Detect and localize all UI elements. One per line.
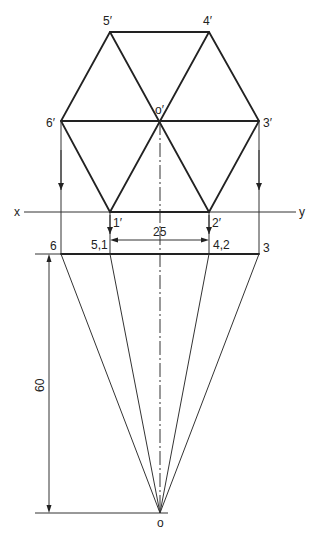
label-6-prime: 6′ bbox=[46, 116, 56, 130]
label-3-prime: 3′ bbox=[263, 116, 273, 130]
label-x: x bbox=[14, 205, 20, 219]
projection-drawing: 5′ 4′ 6′ o′ 3′ 1′ 2′ x y 6 5,1 4,2 3 o 2… bbox=[0, 0, 322, 536]
dimension-height bbox=[35, 254, 168, 513]
label-y: y bbox=[299, 205, 305, 219]
label-5-1: 5,1 bbox=[91, 238, 108, 252]
label-6: 6 bbox=[50, 239, 57, 253]
label-1-prime: 1′ bbox=[113, 216, 123, 230]
dimension-60-label: 60 bbox=[33, 378, 47, 392]
label-4-prime: 4′ bbox=[203, 14, 213, 28]
label-5-prime: 5′ bbox=[103, 14, 113, 28]
label-3: 3 bbox=[263, 241, 270, 255]
dimension-25-label: 25 bbox=[153, 225, 167, 239]
label-4-2: 4,2 bbox=[213, 238, 230, 252]
label-2-prime: 2′ bbox=[212, 216, 222, 230]
label-o-prime: o′ bbox=[155, 103, 165, 117]
label-o: o bbox=[157, 516, 164, 530]
